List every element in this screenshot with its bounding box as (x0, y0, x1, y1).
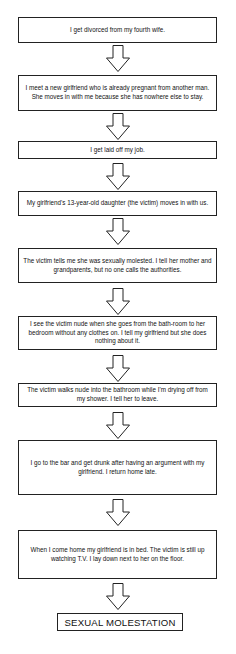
down-arrow-icon (106, 412, 130, 439)
down-arrow-icon (106, 113, 130, 140)
step-text: I go to the bar and get drunk after havi… (23, 459, 212, 476)
flow-step-1: I get divorced from my fourth wife. (18, 17, 217, 43)
flow-step-5: The victim tells me she was sexually mol… (18, 248, 217, 283)
down-arrow-icon (106, 163, 130, 190)
flow-outcome: SEXUAL MOLESTATION (57, 613, 183, 631)
down-arrow-icon (106, 288, 130, 315)
flow-step-4: My girlfriend's 13-year-old daughter (th… (18, 191, 217, 216)
step-text: When I come home my girlfriend is in bed… (23, 546, 212, 563)
down-arrow-icon (106, 45, 130, 72)
down-arrow-icon (106, 218, 130, 245)
flow-step-6: I see the victim nude when she goes from… (18, 316, 217, 350)
step-text: The victim tells me she was sexually mol… (23, 257, 212, 274)
step-text: My girlfriend's 13-year-old daughter (th… (27, 199, 208, 208)
down-arrow-icon (106, 499, 130, 526)
flow-step-7: The victim walks nude into the bathroom … (18, 383, 217, 407)
step-text: I get laid off my job. (90, 146, 145, 155)
flow-step-3: I get laid off my job. (18, 141, 217, 159)
flow-step-2: I meet a new girlfriend who is already p… (18, 75, 217, 111)
flow-step-9: When I come home my girlfriend is in bed… (18, 530, 217, 579)
step-text: The victim walks nude into the bathroom … (23, 386, 212, 403)
outcome-text: SEXUAL MOLESTATION (64, 617, 175, 628)
step-text: I get divorced from my fourth wife. (70, 26, 165, 35)
step-text: I see the victim nude when she goes from… (23, 320, 212, 346)
flow-step-8: I go to the bar and get drunk after havi… (18, 440, 217, 495)
down-arrow-icon (106, 583, 130, 610)
down-arrow-icon (106, 355, 130, 382)
step-text: I meet a new girlfriend who is already p… (23, 84, 212, 101)
